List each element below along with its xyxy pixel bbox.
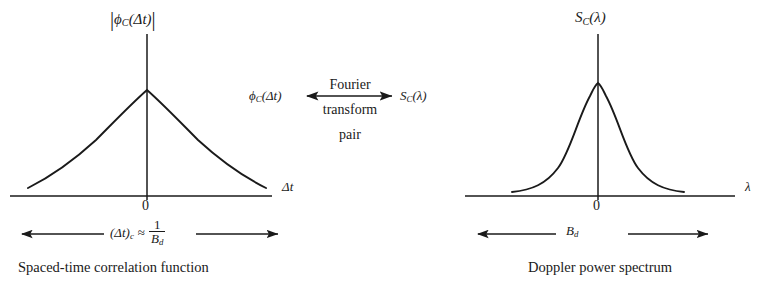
fourier-label-line3: pair [310, 128, 390, 142]
right-y-axis-argument: (λ) [589, 9, 606, 25]
right-y-axis-symbol: S [575, 9, 583, 25]
fraction-denominator: Bd [149, 231, 165, 247]
left-y-axis-label: |ϕC(Δt)| [110, 9, 156, 29]
fourier-label-line2: transform [305, 103, 395, 117]
fraction-denominator-symbol: B [151, 231, 159, 246]
coherence-prefix: (Δt) [110, 225, 130, 240]
figure-root: |ϕC(Δt)| Δt 0 (Δt)c≈ 1 Bd Spaced-time co… [0, 0, 775, 290]
fraction-denominator-subscript: d [159, 238, 163, 248]
right-origin-label: 0 [593, 199, 600, 213]
left-y-axis-subscript: C [122, 17, 129, 28]
left-x-axis-label: Δt [282, 180, 293, 193]
left-coherence-time-expression: (Δt)c≈ 1 Bd [110, 219, 165, 249]
fourier-left-symbol: ϕ [249, 88, 256, 103]
left-origin-label: 0 [142, 199, 149, 213]
bandwidth-subscript: d [574, 229, 578, 239]
fraction-numerator: 1 [149, 218, 165, 231]
approx-symbol: ≈ [134, 225, 149, 240]
right-x-axis-label: λ [745, 180, 751, 193]
right-y-axis-label: SC(λ) [575, 10, 606, 27]
bandwidth-symbol: B [566, 223, 574, 238]
right-bandwidth-expression: Bd [566, 224, 578, 239]
fourier-left-term: ϕC(Δt) [249, 89, 282, 104]
right-panel-caption: Doppler power spectrum [528, 260, 672, 275]
magnitude-bar-right: | [152, 8, 156, 30]
left-y-axis-symbol: ϕ [114, 11, 122, 27]
fourier-left-argument: (Δt) [262, 88, 282, 103]
right-plot-axes [465, 34, 735, 200]
left-panel-caption: Spaced-time correlation function [18, 260, 209, 275]
fourier-label-line1: Fourier [310, 78, 390, 92]
left-y-axis-argument: (Δt) [129, 11, 152, 27]
reciprocal-bandwidth-fraction: 1 Bd [149, 218, 165, 248]
fourier-right-argument: (λ) [412, 88, 426, 103]
fourier-right-term: SC(λ) [400, 89, 427, 104]
